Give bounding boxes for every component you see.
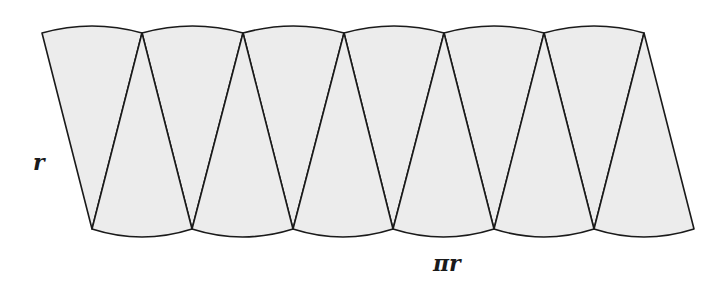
- sector-parallelogram-diagram: [0, 0, 715, 286]
- radius-label: r: [33, 151, 45, 173]
- sectors-group: [42, 26, 694, 237]
- half-circumference-label: πr: [433, 252, 461, 274]
